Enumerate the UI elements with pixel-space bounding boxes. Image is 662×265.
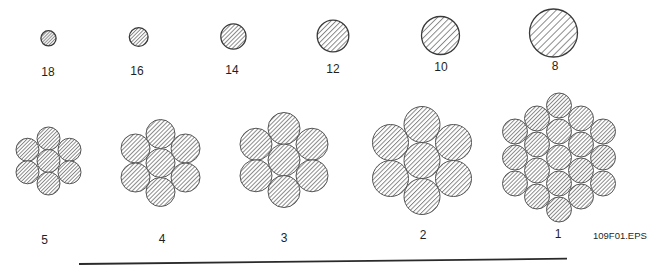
strand-circle — [525, 184, 550, 209]
solid-wire-circle — [129, 28, 148, 47]
strand-circle — [16, 161, 39, 184]
solid-conductor-row: 18 16 14 12 10 8 — [41, 9, 578, 79]
solid-wire-circle — [422, 17, 460, 55]
strand-circle — [16, 138, 39, 161]
strand-circle — [569, 158, 594, 183]
gauge-label: 4 — [159, 232, 166, 246]
strand-circle — [503, 145, 528, 170]
strand-bundle-icon — [503, 93, 616, 222]
gauge-label: 10 — [434, 60, 448, 74]
solid-conductor-10: 10 — [422, 17, 460, 75]
conductor-cross-section-icon — [41, 31, 56, 46]
strand-circle — [171, 163, 200, 192]
stranded-conductor-row: 5 4 3 2 1 — [16, 93, 616, 247]
conductor-cross-section-icon — [221, 24, 246, 49]
strand-circle — [404, 179, 440, 215]
solid-wire-circle — [221, 24, 246, 49]
strand-circle — [569, 184, 594, 209]
solid-wire-circle — [41, 31, 56, 46]
gauge-label: 1 — [555, 227, 562, 241]
strand-circle — [37, 172, 60, 195]
gauge-label: 5 — [41, 233, 48, 247]
figure-id: 109F01.EPS — [593, 230, 647, 241]
gauge-label: 14 — [225, 63, 239, 77]
bottom-rule-divider — [79, 259, 567, 264]
gauge-label: 18 — [41, 65, 55, 79]
strand-circle — [436, 125, 472, 161]
strand-circle — [547, 145, 572, 170]
strand-bundle-icon — [373, 107, 472, 215]
strand-circle — [503, 119, 528, 144]
stranded-conductor-3: 3 — [240, 113, 328, 245]
solid-conductor-8: 8 — [530, 9, 578, 73]
stranded-conductor-5: 5 — [16, 127, 81, 247]
strand-circle — [404, 143, 440, 179]
gauge-label: 3 — [281, 231, 288, 245]
solid-conductor-12: 12 — [317, 20, 349, 75]
conductor-cross-section-icon — [317, 20, 349, 52]
strand-circle — [436, 161, 472, 197]
strand-circle — [547, 93, 572, 118]
strand-circle — [240, 160, 272, 192]
strand-circle — [121, 163, 150, 192]
strand-circle — [569, 106, 594, 131]
strand-circle — [373, 125, 409, 161]
stranded-conductor-2: 2 — [373, 107, 472, 243]
strand-circle — [37, 127, 60, 150]
stranded-conductor-1: 1 — [503, 93, 616, 241]
solid-conductor-18: 18 — [41, 31, 56, 79]
solid-wire-circle — [530, 9, 578, 57]
gauge-label: 12 — [326, 62, 340, 76]
strand-circle — [296, 160, 328, 192]
strand-circle — [146, 178, 175, 207]
wire-gauge-diagram: 18 16 14 12 10 8 5 4 — [0, 0, 662, 265]
strand-circle — [268, 176, 300, 208]
solid-wire-circle — [317, 20, 349, 52]
strand-circle — [171, 134, 200, 163]
solid-conductor-16: 16 — [129, 28, 148, 78]
strand-circle — [373, 161, 409, 197]
strand-circle — [503, 171, 528, 196]
strand-circle — [591, 145, 616, 170]
strand-circle — [591, 119, 616, 144]
conductor-cross-section-icon — [129, 28, 148, 47]
solid-conductor-14: 14 — [221, 24, 246, 77]
strand-circle — [547, 171, 572, 196]
strand-bundle-icon — [121, 120, 200, 207]
strand-circle — [525, 132, 550, 157]
strand-bundle-icon — [16, 127, 81, 195]
strand-circle — [58, 138, 81, 161]
strand-bundle-icon — [240, 113, 328, 208]
strand-circle — [268, 113, 300, 145]
strand-circle — [58, 161, 81, 184]
strand-circle — [547, 119, 572, 144]
strand-circle — [121, 134, 150, 163]
conductor-cross-section-icon — [530, 9, 578, 57]
strand-circle — [37, 150, 60, 173]
gauge-label: 2 — [420, 228, 427, 242]
strand-circle — [146, 120, 175, 149]
strand-circle — [547, 197, 572, 222]
strand-circle — [591, 171, 616, 196]
strand-circle — [525, 106, 550, 131]
conductor-cross-section-icon — [422, 17, 460, 55]
strand-circle — [268, 144, 300, 176]
strand-circle — [525, 158, 550, 183]
strand-circle — [240, 128, 272, 160]
strand-circle — [296, 128, 328, 160]
gauge-label: 16 — [130, 64, 144, 78]
strand-circle — [404, 107, 440, 143]
stranded-conductor-4: 4 — [121, 120, 200, 246]
strand-circle — [569, 132, 594, 157]
gauge-label: 8 — [552, 59, 559, 73]
strand-circle — [146, 149, 175, 178]
